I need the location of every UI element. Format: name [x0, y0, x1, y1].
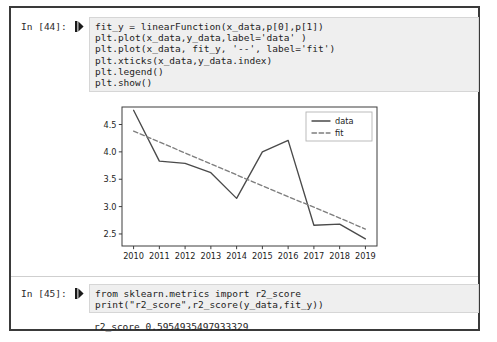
code-line: from sklearn.metrics import r2_score [95, 288, 474, 299]
line-chart: 2.53.03.54.04.52010201120122013201420152… [89, 98, 389, 270]
x-tick-label: 2010 [123, 251, 144, 261]
code-editor-cell-2[interactable]: from sklearn.metrics import r2_score pri… [89, 284, 479, 313]
cell-divider [11, 276, 478, 277]
code-line: plt.plot(x_data,y_data,label='data' ) [95, 32, 474, 43]
cell-prompt-in-44: In [44]: [21, 21, 73, 32]
notebook-container: In [44]: fit_y = linearFunction(x_data,p… [9, 6, 480, 331]
legend-label-data: data [335, 116, 353, 126]
stdout-output-r2-score: r2_score 0.5954935497933329 [94, 321, 248, 332]
y-tick-label: 2.5 [103, 229, 116, 239]
code-editor-cell-1[interactable]: fit_y = linearFunction(x_data,p[0],p[1])… [89, 17, 479, 92]
x-tick-label: 2016 [278, 251, 299, 261]
run-marker-icon-cell-2[interactable] [75, 288, 84, 301]
x-tick-label: 2015 [252, 251, 273, 261]
x-tick-label: 2012 [175, 251, 196, 261]
x-tick-label: 2011 [149, 251, 170, 261]
code-line: plt.plot(x_data, fit_y, '--', label='fit… [95, 43, 474, 54]
x-tick-label: 2013 [200, 251, 221, 261]
x-tick-label: 2019 [355, 251, 376, 261]
y-tick-label: 4.5 [103, 120, 116, 130]
code-line: fit_y = linearFunction(x_data,p[0],p[1]) [95, 21, 474, 32]
code-line: plt.xticks(x_data,y_data.index) [95, 55, 474, 66]
code-line: plt.legend() [95, 66, 474, 77]
y-tick-label: 3.0 [103, 202, 116, 212]
run-marker-icon-cell-1[interactable] [75, 21, 84, 34]
legend-label-fit: fit [335, 128, 344, 138]
x-tick-label: 2018 [329, 251, 350, 261]
cell-prompt-in-45: In [45]: [21, 288, 73, 299]
code-line: plt.show() [95, 77, 474, 88]
code-line: print("r2_score",r2_score(y_data,fit_y)) [95, 299, 474, 310]
chart-legend: datafit [306, 112, 372, 141]
y-tick-label: 3.5 [103, 174, 116, 184]
x-tick-label: 2014 [226, 251, 247, 261]
play-pause-glyph [75, 288, 84, 299]
x-tick-label: 2017 [303, 251, 324, 261]
y-tick-label: 4.0 [103, 147, 116, 157]
chart-output-figure: 2.53.03.54.04.52010201120122013201420152… [89, 98, 389, 270]
play-pause-glyph [75, 21, 84, 32]
